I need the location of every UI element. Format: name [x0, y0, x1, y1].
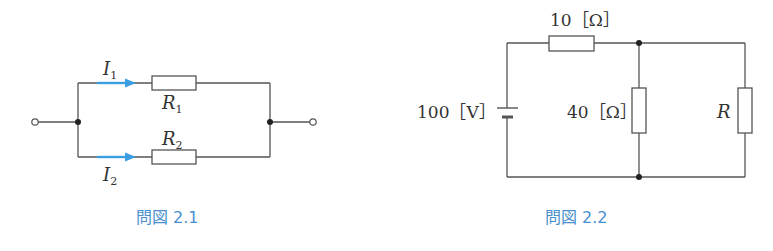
resistor-r1: [152, 76, 196, 90]
left-terminal: [32, 119, 38, 125]
right-terminal: [310, 119, 316, 125]
label-r2: R2: [161, 128, 183, 152]
label-r1: R1: [161, 92, 183, 116]
label-10-ohm: 10［Ω］: [550, 10, 620, 30]
label-100-volt: 100［V］: [417, 102, 496, 122]
circuit-figures: I1 I2 R1 R2 問図 2.1 10［Ω］ 100［V］: [0, 0, 773, 251]
label-40-ohm: 40［Ω］: [567, 102, 637, 122]
figure-2-1-circuit: I1 I2 R1 R2 問図 2.1: [32, 58, 316, 227]
battery-icon: [497, 108, 518, 117]
junction-dot: [636, 40, 642, 46]
resistor-r2: [152, 150, 196, 164]
junction-dot: [75, 119, 81, 125]
label-i2: I2: [102, 164, 117, 188]
resistor-10-ohm: [549, 36, 594, 51]
label-r: R: [716, 101, 731, 122]
current-arrow-i2-icon: [97, 153, 136, 162]
resistor-r: [738, 88, 752, 133]
figure-caption-2-2: 問図 2.2: [545, 208, 608, 227]
junction-dot: [636, 174, 642, 180]
label-i1: I1: [102, 58, 117, 82]
figure-2-2-circuit: 10［Ω］ 100［V］ 40［Ω］ R 問図 2.2: [417, 10, 752, 227]
junction-dot: [267, 119, 273, 125]
figure-caption-2-1: 問図 2.1: [136, 208, 199, 227]
